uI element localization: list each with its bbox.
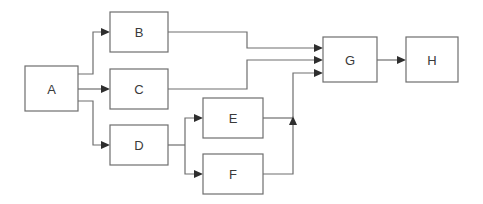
node-b: B <box>110 12 168 52</box>
arrowhead-icon <box>101 28 110 36</box>
arrowhead-icon <box>397 56 406 64</box>
arrowhead-icon <box>101 85 110 93</box>
edge-a-to-b <box>78 32 104 74</box>
arrowhead-icon <box>194 170 203 178</box>
node-g: G <box>323 37 377 82</box>
edge-merge-to-g <box>293 73 317 118</box>
edge-b-to-g <box>168 32 317 48</box>
node-a-label: A <box>47 82 56 97</box>
edge-f-to-merge <box>263 124 293 174</box>
node-f-label: F <box>229 167 237 182</box>
node-d-label: D <box>134 138 143 153</box>
arrowhead-icon <box>101 141 110 149</box>
flowchart-diagram: A B C D E F G H <box>0 0 483 204</box>
node-e-label: E <box>229 111 238 126</box>
node-f: F <box>203 154 263 194</box>
node-b-label: B <box>135 25 144 40</box>
node-h: H <box>406 37 458 82</box>
edge-d-to-f <box>185 145 197 174</box>
node-e: E <box>203 98 263 138</box>
edge-c-to-g <box>168 60 317 89</box>
edge-d-to-e <box>185 118 197 145</box>
edge-a-to-d <box>78 101 104 145</box>
arrowhead-icon <box>314 56 323 64</box>
node-g-label: G <box>345 53 355 68</box>
node-h-label: H <box>427 53 436 68</box>
node-c: C <box>110 69 168 109</box>
node-d: D <box>110 125 168 165</box>
arrowhead-icon <box>314 44 323 52</box>
node-c-label: C <box>134 82 143 97</box>
node-a: A <box>25 66 78 111</box>
arrowhead-icon <box>194 114 203 122</box>
arrowhead-icon <box>314 69 323 77</box>
